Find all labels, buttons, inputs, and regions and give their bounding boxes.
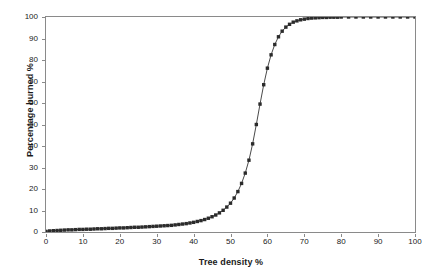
data-point-marker bbox=[59, 229, 62, 232]
data-point-marker bbox=[66, 228, 69, 231]
y-tick-label: 10 bbox=[0, 207, 38, 215]
data-point-marker bbox=[151, 225, 154, 228]
data-point-marker bbox=[369, 17, 372, 19]
data-point-marker bbox=[125, 226, 128, 229]
x-axis-title: Tree density % bbox=[45, 257, 417, 267]
data-point-marker bbox=[221, 209, 224, 212]
data-point-marker bbox=[310, 17, 313, 20]
data-point-marker bbox=[314, 17, 317, 20]
x-tick-label: 90 bbox=[363, 238, 393, 246]
data-point-marker bbox=[107, 227, 110, 230]
data-point-marker bbox=[177, 223, 180, 226]
data-point-marker bbox=[46, 230, 48, 232]
data-point-marker bbox=[258, 102, 261, 105]
x-tick-label: 0 bbox=[31, 238, 61, 246]
data-point-marker bbox=[332, 17, 335, 19]
data-point-marker bbox=[277, 35, 280, 38]
data-point-marker bbox=[133, 226, 136, 229]
data-series-svg bbox=[46, 17, 415, 232]
data-point-marker bbox=[288, 23, 291, 26]
x-tick-label: 80 bbox=[326, 238, 356, 246]
data-point-marker bbox=[96, 227, 99, 230]
data-point-marker bbox=[391, 17, 394, 19]
data-point-marker bbox=[210, 215, 213, 218]
data-point-marker bbox=[306, 17, 309, 20]
data-point-marker bbox=[236, 190, 239, 193]
data-point-marker bbox=[225, 205, 228, 208]
data-point-marker bbox=[362, 17, 365, 19]
data-point-marker bbox=[114, 226, 117, 229]
data-point-marker bbox=[122, 226, 125, 229]
data-point-marker bbox=[280, 29, 283, 32]
data-point-marker bbox=[70, 228, 73, 231]
data-point-marker bbox=[247, 158, 250, 161]
data-point-marker bbox=[406, 17, 409, 19]
x-tick-mark bbox=[157, 234, 158, 237]
x-tick-mark bbox=[304, 234, 305, 237]
x-tick-mark bbox=[46, 234, 47, 237]
x-tick-label: 30 bbox=[142, 238, 172, 246]
data-point-marker bbox=[255, 123, 258, 126]
x-tick-label: 100 bbox=[400, 238, 430, 246]
data-point-marker bbox=[399, 17, 402, 19]
data-point-marker bbox=[74, 228, 77, 231]
data-point-marker bbox=[144, 225, 147, 228]
data-point-marker bbox=[137, 226, 140, 229]
x-tick-label: 10 bbox=[68, 238, 98, 246]
x-tick-label: 40 bbox=[179, 238, 209, 246]
data-point-marker bbox=[92, 227, 95, 230]
x-tick-label: 20 bbox=[105, 238, 135, 246]
data-point-marker bbox=[129, 226, 132, 229]
data-point-marker bbox=[159, 224, 162, 227]
data-point-marker bbox=[192, 221, 195, 224]
x-tick-label: 50 bbox=[216, 238, 246, 246]
data-point-marker bbox=[166, 224, 169, 227]
data-point-marker bbox=[173, 223, 176, 226]
x-tick-mark bbox=[267, 234, 268, 237]
x-tick-mark bbox=[83, 234, 84, 237]
data-point-marker bbox=[229, 201, 232, 204]
x-tick-mark bbox=[378, 234, 379, 237]
data-point-marker bbox=[303, 17, 306, 20]
data-point-marker bbox=[273, 43, 276, 46]
data-point-marker bbox=[140, 225, 143, 228]
data-point-marker bbox=[232, 196, 235, 199]
data-point-marker bbox=[262, 83, 265, 86]
data-point-marker bbox=[148, 225, 151, 228]
data-point-marker bbox=[81, 228, 84, 231]
data-point-marker bbox=[100, 227, 103, 230]
data-point-marker bbox=[203, 218, 206, 221]
data-point-marker bbox=[336, 17, 339, 19]
data-point-marker bbox=[218, 211, 221, 214]
x-tick-mark bbox=[120, 234, 121, 237]
data-point-marker bbox=[196, 220, 199, 223]
data-point-marker bbox=[185, 222, 188, 225]
data-point-marker bbox=[181, 222, 184, 225]
data-point-marker bbox=[347, 17, 350, 19]
plot-area bbox=[45, 16, 416, 233]
data-point-marker bbox=[328, 17, 331, 19]
data-point-marker bbox=[284, 25, 287, 28]
data-point-marker bbox=[340, 17, 343, 19]
x-tick-label: 70 bbox=[289, 238, 319, 246]
y-tick-label: 100 bbox=[0, 13, 38, 21]
data-point-marker bbox=[321, 17, 324, 19]
data-point-marker bbox=[292, 20, 295, 23]
x-tick-label: 60 bbox=[252, 238, 282, 246]
x-tick-mark bbox=[341, 234, 342, 237]
data-point-marker bbox=[295, 19, 298, 22]
data-point-marker bbox=[52, 229, 55, 232]
chart-figure: Percentage burned % 01020304050607080901… bbox=[0, 0, 433, 277]
series-markers bbox=[46, 17, 415, 232]
data-point-marker bbox=[170, 224, 173, 227]
data-point-marker bbox=[48, 229, 51, 232]
series-line bbox=[46, 17, 415, 231]
data-point-marker bbox=[251, 142, 254, 145]
y-tick-label: 0 bbox=[0, 228, 38, 236]
data-point-marker bbox=[317, 17, 320, 19]
data-point-marker bbox=[299, 18, 302, 21]
data-point-marker bbox=[155, 225, 158, 228]
data-point-marker bbox=[111, 227, 114, 230]
data-point-marker bbox=[214, 213, 217, 216]
data-point-marker bbox=[207, 217, 210, 220]
